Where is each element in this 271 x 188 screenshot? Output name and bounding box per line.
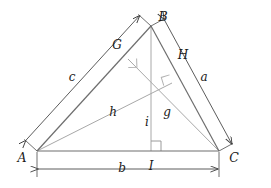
side-label-b: b (118, 161, 126, 175)
side-labels-group: c a b (69, 70, 208, 175)
vertex-label-B: B (157, 9, 167, 24)
side-label-a: a (200, 70, 207, 84)
vertex-label-A: A (16, 150, 26, 165)
triangle-altitudes-figure: A B C G H I c a b h g i (0, 0, 271, 188)
foot-label-H: H (177, 48, 189, 62)
triangle-edges-group (37, 26, 219, 151)
foot-label-G: G (112, 38, 122, 52)
vertex-label-C: C (229, 150, 239, 165)
vertex-labels-group: A B C (16, 9, 239, 165)
dimension-line-c (26, 16, 140, 141)
altitude-label-h: h (109, 105, 117, 119)
extension-tick-c-end (138, 14, 151, 26)
altitude-label-i: i (145, 115, 149, 129)
altitude-labels-group: h g i (109, 105, 171, 129)
triangle-side-AB (37, 26, 151, 151)
right-angle-at-I-icon (151, 141, 161, 151)
dimension-line-a (164, 19, 232, 144)
geometry-diagram-canvas: A B C G H I c a b h g i (0, 0, 271, 188)
altitude-lines-group (37, 26, 219, 151)
foot-labels-group: G H I (112, 38, 189, 173)
foot-label-I: I (148, 159, 154, 173)
right-angle-at-H-icon (158, 72, 169, 86)
altitude-label-g: g (163, 105, 171, 119)
dimension-lines-group (24, 14, 233, 177)
side-label-c: c (69, 70, 76, 84)
